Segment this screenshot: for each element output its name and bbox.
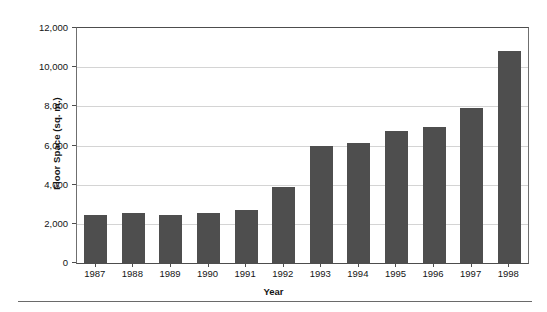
y-axis-tick-label: 6,000 [0,139,74,150]
x-axis-tick-mark [433,263,434,267]
y-axis-tick-label: 2,000 [0,217,74,228]
x-axis-title: Year [0,286,547,297]
bar [122,213,145,263]
x-axis-tick-label: 1995 [376,268,414,279]
bar-chart-figure: Floor Space (sq. m.) 02,0004,0006,0008,0… [0,0,547,312]
x-axis-tick-mark [283,263,284,267]
bar [197,213,220,263]
x-axis-tick-mark [471,263,472,267]
x-axis-tick-label: 1988 [113,268,151,279]
x-axis-tick-label: 1989 [151,268,189,279]
y-axis-tick-label: 10,000 [0,61,74,72]
x-axis-tick-mark [508,263,509,267]
y-axis-tick-label: 8,000 [0,100,74,111]
x-axis-tick-label: 1992 [264,268,302,279]
x-axis-tick-label: 1997 [452,268,490,279]
x-axis-tick-mark [320,263,321,267]
bar [423,127,446,263]
x-axis-tick-label: 1991 [226,268,264,279]
x-axis-tick-mark [245,263,246,267]
x-axis-tick-mark [170,263,171,267]
bottom-divider-rule [18,301,532,302]
x-axis-tick-label: 1987 [76,268,114,279]
gridline [77,106,528,107]
x-axis-tick-mark [132,263,133,267]
bar [460,108,483,263]
x-axis-tick-label: 1993 [301,268,339,279]
x-axis-tick-mark [358,263,359,267]
x-axis-tick-mark [95,263,96,267]
bar [159,215,182,263]
bar [385,131,408,263]
bar [235,210,258,263]
y-axis-tick-label: 0 [0,257,74,268]
bar [84,215,107,263]
x-axis-tick-label: 1990 [189,268,227,279]
y-axis-tick-label: 4,000 [0,178,74,189]
gridline [77,67,528,68]
x-axis-tick-label: 1998 [489,268,527,279]
bar [310,146,333,264]
x-axis-tick-mark [395,263,396,267]
x-axis-tick-label: 1994 [339,268,377,279]
x-axis-tick-mark [208,263,209,267]
plot-area [76,27,529,264]
bar [498,51,521,263]
y-axis-tick-label: 12,000 [0,22,74,33]
bar [272,187,295,263]
x-axis-tick-label: 1996 [414,268,452,279]
bar [347,143,370,263]
